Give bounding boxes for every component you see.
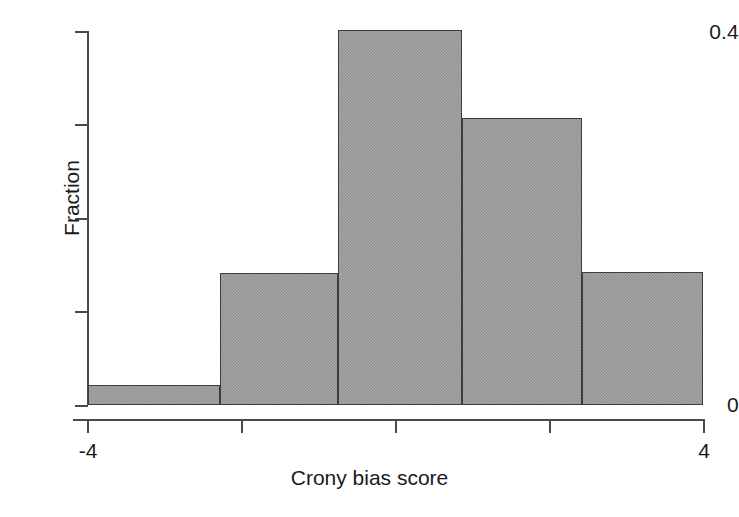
- histogram-bar: [220, 273, 338, 405]
- histogram-bar: [582, 272, 703, 405]
- histogram-bar: [338, 30, 462, 405]
- plot-area: [0, 0, 739, 517]
- histogram-bar: [88, 385, 220, 405]
- histogram-bar: [462, 118, 583, 405]
- histogram-figure: 0.4 0 -4 4 Fraction Crony bias score: [0, 0, 739, 517]
